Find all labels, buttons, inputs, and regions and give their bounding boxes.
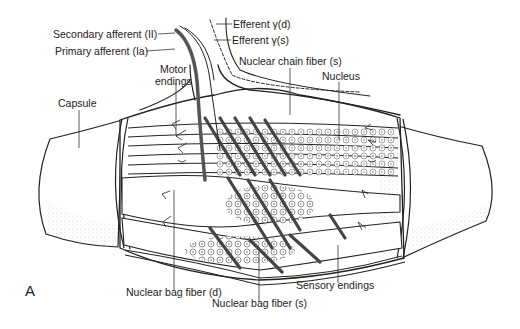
label-primary-afferent: Primary afferent (Ia) bbox=[55, 45, 148, 57]
label-nuclear-chain-fiber: Nuclear chain fiber (s) bbox=[239, 55, 342, 67]
label-sensory-endings: Sensory endings bbox=[296, 279, 374, 291]
capsule-left bbox=[39, 120, 122, 247]
label-nuclear-bag-fiber-s: Nuclear bag fiber (s) bbox=[212, 297, 307, 309]
label-nuclear-bag-fiber-d: Nuclear bag fiber (d) bbox=[126, 286, 222, 298]
label-capsule: Capsule bbox=[58, 97, 97, 109]
label-secondary-afferent: Secondary afferent (II) bbox=[53, 28, 157, 40]
label-efferent-gamma-d: Efferent γ(d) bbox=[233, 18, 291, 30]
label-efferent-gamma-s: Efferent γ(s) bbox=[232, 34, 289, 46]
capsule-right bbox=[398, 126, 492, 258]
panel-letter: A bbox=[25, 282, 35, 299]
label-motor-endings-line1: Motor bbox=[160, 63, 187, 75]
label-nucleus: Nucleus bbox=[322, 70, 360, 82]
label-motor-endings-line2: endings bbox=[155, 75, 192, 87]
